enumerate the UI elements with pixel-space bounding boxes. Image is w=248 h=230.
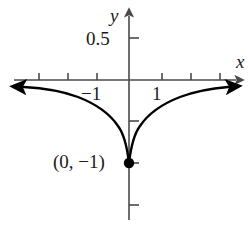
y-axis xyxy=(129,16,139,220)
graph-figure: y x 0.5 −1 1 (0, −1) xyxy=(0,0,248,230)
x-tick-label-one: 1 xyxy=(152,84,162,103)
curve-right-branch xyxy=(129,87,228,163)
coordinate-plot xyxy=(0,0,248,230)
y-axis-label: y xyxy=(110,6,118,25)
y-tick-label-half: 0.5 xyxy=(86,29,110,48)
y-axis-ticks xyxy=(129,38,139,205)
vertex-point-marker xyxy=(124,158,134,168)
vertex-point-label: (0, −1) xyxy=(53,152,105,171)
x-axis xyxy=(14,73,236,80)
x-axis-label: x xyxy=(236,52,244,71)
x-tick-label-negative-one: −1 xyxy=(81,84,101,103)
